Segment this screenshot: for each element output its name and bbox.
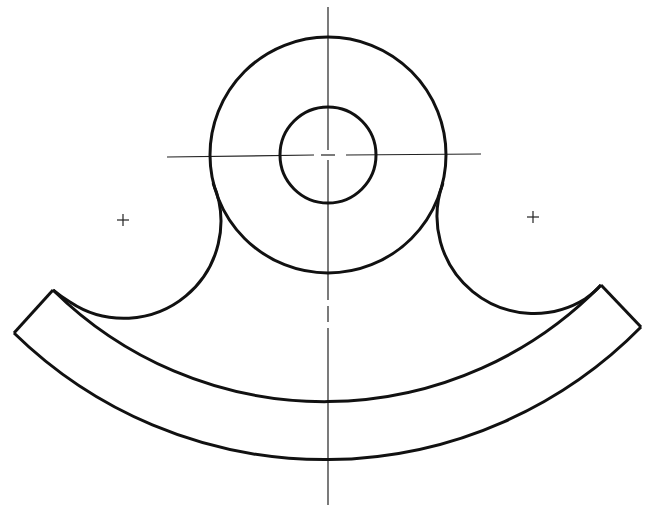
right-fillet-arc <box>437 183 601 313</box>
left-fillet-arc <box>53 183 221 318</box>
horizontal-centerline-left <box>167 155 314 157</box>
left-band-end <box>14 290 53 333</box>
right-band-end <box>601 285 641 327</box>
arc-band-inner <box>53 285 601 402</box>
horizontal-centerline-right <box>346 154 481 155</box>
technical-drawing <box>0 0 657 507</box>
